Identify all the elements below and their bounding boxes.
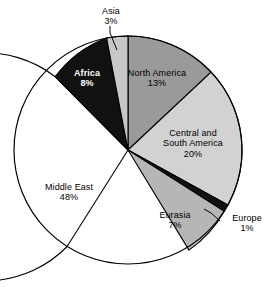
pie-label-central-south-america-name-line1: Central and [150, 128, 236, 138]
pie-label-north-america: North America 13% [115, 68, 199, 89]
pie-label-middle-east: Middle East 48% [26, 182, 112, 203]
pie-label-asia-name: Asia [83, 6, 139, 16]
pie-label-africa-value: 8% [58, 78, 116, 88]
pie-label-central-south-america: Central and South America 20% [150, 128, 236, 159]
pie-label-asia: Asia 3% [83, 6, 139, 27]
pie-label-eurasia-value: 7% [148, 220, 202, 230]
pie-chart: Asia 3% Africa 8% North America 13% Cent… [0, 0, 276, 287]
pie-label-asia-value: 3% [83, 16, 139, 26]
pie-label-europe: Europe 1% [222, 213, 272, 234]
pie-label-eurasia: Eurasia 7% [148, 210, 202, 231]
pie-label-central-south-america-name-line2: South America [150, 138, 236, 148]
pie-label-north-america-value: 13% [115, 78, 199, 88]
pie-label-middle-east-name: Middle East [26, 182, 112, 192]
pie-label-middle-east-value: 48% [26, 192, 112, 202]
pie-label-eurasia-name: Eurasia [148, 210, 202, 220]
pie-label-north-america-name: North America [115, 68, 199, 78]
pie-label-europe-value: 1% [222, 223, 272, 233]
pie-label-africa: Africa 8% [58, 68, 116, 89]
pie-label-europe-name: Europe [222, 213, 272, 223]
pie-label-africa-name: Africa [58, 68, 116, 78]
pie-label-central-south-america-value: 20% [150, 149, 236, 159]
